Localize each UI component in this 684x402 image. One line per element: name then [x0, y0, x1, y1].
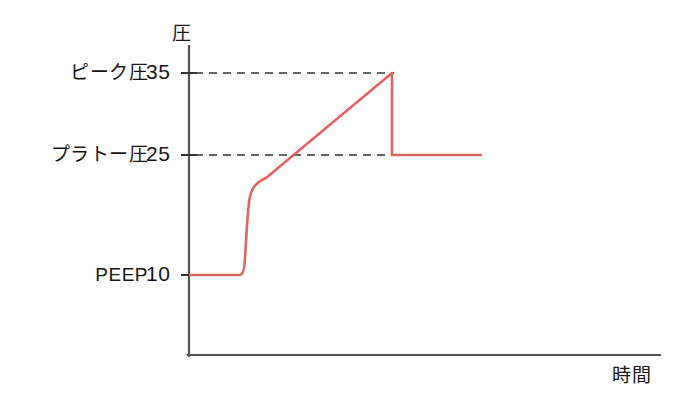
- chart-canvas: [0, 0, 684, 402]
- peep-label: PEEP: [95, 265, 148, 284]
- peak-pressure-label: ピーク圧: [70, 63, 148, 82]
- plateau-pressure-value: 25: [146, 143, 170, 164]
- plateau-pressure-label: プラトー圧: [51, 145, 149, 164]
- y-axis-title: 圧: [172, 24, 192, 43]
- pressure-curve: [189, 73, 482, 275]
- peep-value: 10: [146, 263, 170, 284]
- pressure-time-waveform-figure: 圧 時間 ピーク圧 35 プラトー圧 25 PEEP 10: [0, 0, 684, 402]
- x-axis-title: 時間: [612, 366, 651, 385]
- peak-pressure-value: 35: [146, 61, 170, 82]
